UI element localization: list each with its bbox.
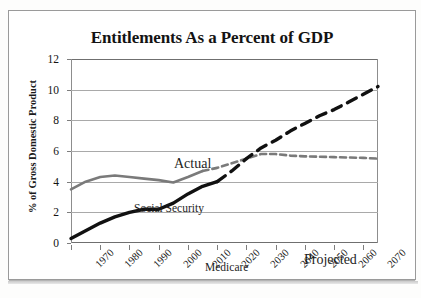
x-tick-label: 2040	[298, 247, 321, 270]
x-tick-label: 2060	[356, 247, 379, 270]
x-tick-label: 2020	[239, 247, 262, 270]
chart-frame: Entitlements As a Percent of GDP % of Gr…	[8, 10, 416, 280]
x-tick-label: 1990	[152, 247, 175, 270]
x-tick-label: 2050	[327, 247, 350, 270]
y-tick-label: 10	[48, 84, 60, 96]
x-tick-mark	[363, 245, 364, 250]
y-tick-label: 0	[53, 237, 59, 249]
x-tick-mark	[188, 245, 189, 250]
y-tick-label: 8	[53, 114, 59, 126]
y-tick-label: 12	[48, 53, 60, 65]
y-tick-label: 2	[53, 206, 59, 218]
series-line-medicare-projected	[217, 87, 378, 182]
x-tick-mark	[100, 245, 101, 250]
x-tick-mark	[334, 245, 335, 250]
scanned-page-background: Entitlements As a Percent of GDP % of Gr…	[0, 0, 421, 298]
series-line-social-security-projected	[203, 154, 378, 171]
series-label-social-security: Social Security	[134, 202, 204, 214]
x-tick-label: 2070	[386, 247, 409, 270]
x-tick-mark	[71, 245, 72, 250]
x-tick-mark	[129, 245, 130, 250]
y-tick-label: 4	[53, 176, 59, 188]
chart-title: Entitlements As a Percent of GDP	[9, 28, 415, 48]
plot-area: Actual Projected Social Security Medicar…	[71, 59, 378, 243]
x-tick-mark	[217, 245, 218, 250]
data-series-layer	[71, 59, 378, 243]
y-tick-mark	[67, 243, 71, 244]
x-tick-label: 2010	[210, 247, 233, 270]
x-tick-label: 2000	[181, 247, 204, 270]
x-axis-tick-labels: 1970198019902000201020202030204020502060…	[71, 245, 378, 289]
x-tick-mark	[305, 245, 306, 250]
series-line-social-security-actual	[71, 171, 203, 189]
x-tick-label: 1980	[122, 247, 145, 270]
y-axis-tick-labels: 024681012	[9, 59, 67, 243]
x-tick-mark	[159, 245, 160, 250]
x-tick-label: 2030	[269, 247, 292, 270]
y-tick-label: 6	[53, 145, 59, 157]
x-tick-mark	[276, 245, 277, 250]
x-tick-label: 1970	[93, 247, 116, 270]
annotation-actual: Actual	[174, 156, 211, 172]
x-tick-mark	[246, 245, 247, 250]
